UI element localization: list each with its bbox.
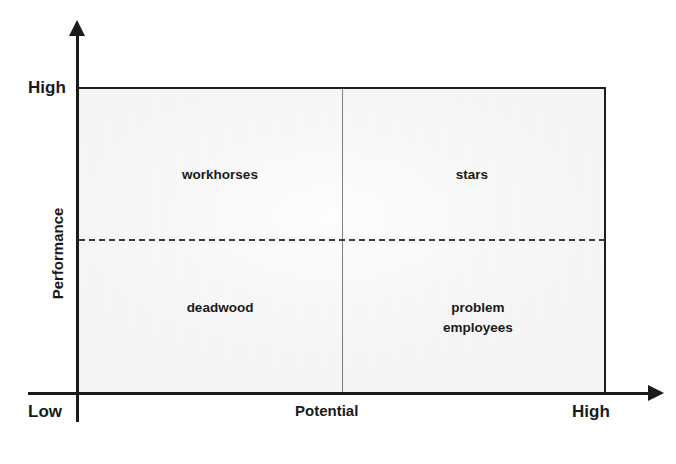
y-axis-high-label: High <box>28 78 66 98</box>
x-axis-arrow-icon <box>648 385 664 401</box>
plot-right-border <box>604 87 606 395</box>
x-axis-high-label: High <box>572 402 610 422</box>
y-axis-arrow-icon <box>69 20 85 36</box>
y-axis-title: Performance <box>49 189 66 319</box>
y-axis-low-label: Low <box>28 402 62 422</box>
quadrant-label-workhorses: workhorses <box>145 165 295 185</box>
y-axis-line <box>76 32 79 422</box>
performance-potential-matrix: High Low High Potential Performance work… <box>0 0 676 464</box>
quadrant-label-deadwood: deadwood <box>145 298 295 318</box>
quadrant-label-problem-employees: problem employees <box>418 298 538 338</box>
horizontal-divider-dashed-line <box>79 239 605 241</box>
x-axis-line <box>28 392 651 395</box>
x-axis-title: Potential <box>295 402 358 419</box>
quadrant-label-stars: stars <box>412 165 532 185</box>
vertical-divider-line <box>342 89 343 393</box>
